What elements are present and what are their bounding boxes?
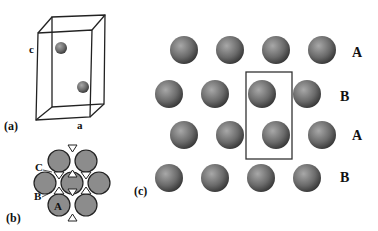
sphere-a [308,36,336,64]
sphere-b [155,164,183,192]
unit-cell-atoms [55,42,89,93]
layer-b-label: B [34,190,42,202]
unit-cell-box [36,15,105,120]
row-label-a1: A [352,45,363,60]
panel-c-label: (c) [134,184,147,198]
sphere-a [170,36,198,64]
figure-canvas: c a (a) C B A (b) A B A B (c) [0,0,378,231]
layer-a-label: A [54,200,62,212]
sphere-a [216,121,244,149]
sphere-b [248,80,276,108]
axis-c-label: c [29,43,34,55]
row-label-b1: B [340,89,349,104]
sphere-b [293,164,321,192]
panel-b-label: (b) [6,211,21,225]
sphere-a [308,121,336,149]
panel-a-label: (a) [4,119,18,133]
sphere-b [247,164,275,192]
cell-atom [55,42,67,54]
row-label-a2: A [352,128,363,143]
sphere-a [262,121,290,149]
sphere-a [170,121,198,149]
sphere-b [293,80,321,108]
sphere-b [201,164,229,192]
sphere-b [155,80,183,108]
sphere-a [216,36,244,64]
row-label-b2: B [340,170,349,185]
layer-c-label: C [35,161,43,173]
close-packed-layer [34,150,110,216]
cell-atom [77,81,89,93]
sphere-b [201,80,229,108]
sphere-a [262,36,290,64]
axis-a-label: a [77,119,83,131]
